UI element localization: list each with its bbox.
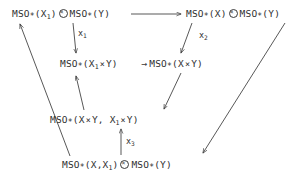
node-bottom-arg2: (Y) (154, 159, 172, 170)
times-symbol: × (120, 115, 127, 125)
node-row-four: MSO*(X×Y, X1×Y) (50, 114, 139, 129)
times-symbol: × (85, 115, 92, 125)
node-top-left-arg1-close: ) (51, 8, 57, 19)
edge-label-x1-sub: 1 (83, 32, 87, 39)
edge-label-x2: x2 (199, 30, 208, 43)
edge-label-x3: x3 (126, 136, 135, 149)
times-symbol: × (99, 59, 106, 69)
node-mid-left-rest: Y) (106, 58, 118, 69)
edge-rowfour-to-midleft (76, 76, 84, 110)
node-top-right-base1: MSO (186, 8, 204, 19)
node-top-right-arg1: (X) (209, 8, 227, 19)
node-mid-right-rest: Y) (191, 58, 203, 69)
tensor-product-icon (229, 9, 238, 18)
arrow-layer (0, 0, 307, 184)
node-mid-right-base: MSO (149, 58, 167, 69)
node-top-left-base2: MSO (70, 8, 88, 19)
commutative-diagram: MSO*(X1)MSO*(Y) MSO*(X)MSO*(Y) MSO*(X1×Y… (0, 0, 307, 184)
node-bottom-base1: MSO (62, 159, 80, 170)
node-mid-left: MSO*(X1×Y) (60, 58, 118, 73)
node-top-left-arg2: (Y) (92, 8, 110, 19)
node-row-four-mid: Y, X (92, 114, 116, 125)
node-bottom-open: (X,X (85, 159, 109, 170)
edge-x1 (73, 23, 76, 53)
edge-label-x2-sub: 2 (204, 34, 208, 41)
node-top-right-arg2: (Y) (262, 8, 280, 19)
node-row-four-base: MSO (50, 114, 68, 125)
tensor-product-icon (120, 160, 129, 169)
edge-midright-to-rowfour (164, 73, 181, 109)
inline-arrow-icon: → (139, 58, 149, 69)
node-top-left-base1: MSO (12, 8, 30, 19)
node-top-left: MSO*(X1)MSO*(Y) (12, 8, 110, 23)
tensor-product-icon (59, 9, 68, 18)
node-mid-right-open: (X (172, 58, 184, 69)
node-top-right: MSO*(X)MSO*(Y) (186, 8, 280, 23)
node-top-left-arg1-open: (X (35, 8, 47, 19)
node-bottom: MSO*(X,X1)MSO*(Y) (62, 159, 172, 174)
node-bottom-base2: MSO (131, 159, 149, 170)
node-mid-left-base: MSO (60, 58, 78, 69)
edge-x2 (181, 23, 192, 53)
edge-label-x3-sub: 3 (131, 140, 135, 147)
edge-topright-to-bottom (203, 23, 285, 153)
node-bottom-close: ) (112, 159, 118, 170)
edge-label-x1: x1 (78, 28, 87, 41)
node-top-right-base2: MSO (240, 8, 258, 19)
node-mid-right: →MSO*(X×Y) (139, 58, 203, 73)
node-mid-left-open: (X (83, 58, 95, 69)
node-row-four-sub: 1 (116, 119, 120, 127)
edge-bottom-to-topleft (20, 24, 70, 156)
node-row-four-rest: Y) (127, 114, 139, 125)
node-row-four-open: (X (73, 114, 85, 125)
